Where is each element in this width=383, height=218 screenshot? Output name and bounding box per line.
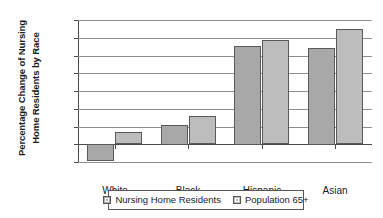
bar-chart-figure: Percentage Change of Nursing Home Reside… [0, 0, 383, 218]
legend-item-population-65-plus: Population 65+ [233, 195, 309, 205]
x-tick-mark [188, 144, 189, 149]
gridline-70.0% [78, 20, 372, 21]
x-tick-mark [335, 144, 336, 149]
bar-asian-series-0 [308, 48, 335, 145]
bar-black-series-0 [161, 125, 188, 145]
y-axis-title: Percentage Change of Nursing Home Reside… [0, 8, 34, 168]
y-tick-mark [74, 91, 78, 92]
y-tick-mark [74, 73, 78, 74]
bar-asian-series-1 [336, 29, 363, 144]
chart-legend: Nursing Home Residents Population 65+ [108, 190, 304, 210]
y-tick-mark [74, 109, 78, 110]
bar-black-series-1 [189, 116, 216, 144]
bar-white-series-0 [87, 144, 114, 161]
plot-area: 70.0%60.0%50.0%40.0%30.0%20.0%10.0%0.0%-… [78, 20, 372, 162]
bar-hispanic-series-1 [262, 40, 289, 144]
legend-label-series-1: Population 65+ [245, 195, 309, 205]
y-tick-mark [74, 38, 78, 39]
legend-item-nursing-home-residents: Nursing Home Residents [103, 195, 221, 205]
y-axis-title-line-1: Percentage Change of Nursing [14, 8, 29, 168]
y-tick-mark [74, 162, 78, 163]
bar-hispanic-series-0 [234, 46, 261, 145]
gridline-60.0% [78, 38, 372, 39]
y-tick-mark [74, 56, 78, 57]
legend-swatch-icon-series-0 [103, 196, 111, 204]
gridline--10.0% [78, 162, 372, 163]
y-tick-mark [74, 20, 78, 21]
legend-swatch-icon-series-1 [233, 196, 241, 204]
x-tick-mark [262, 144, 263, 149]
y-tick-mark [74, 144, 78, 145]
legend-label-series-0: Nursing Home Residents [115, 195, 221, 205]
y-tick-mark [74, 127, 78, 128]
bar-white-series-1 [115, 132, 142, 144]
x-tick-mark [115, 144, 116, 149]
y-axis-title-line-2: Home Residents by Race [28, 8, 43, 168]
